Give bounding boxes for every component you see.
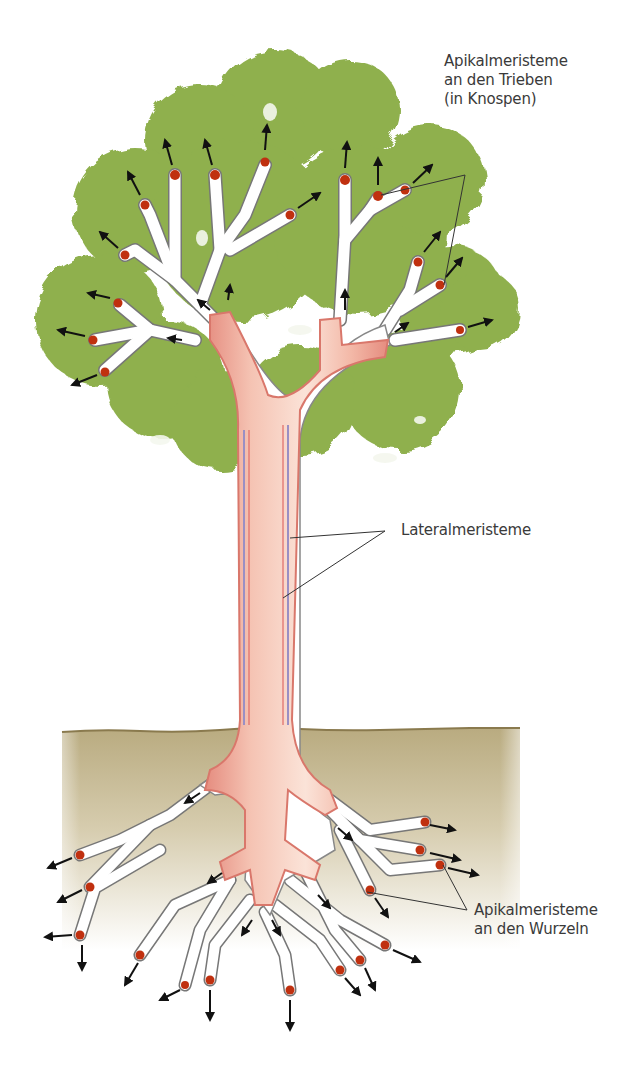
label-root-apical-line1: Apikalmeristeme — [474, 901, 598, 920]
label-root-apical-meristems: Apikalmeristeme an den Wurzeln — [474, 901, 598, 939]
tree-meristem-diagram: Apikalmeristeme an den Trieben (in Knosp… — [0, 0, 629, 1084]
label-shoot-apical-line3: (in Knospen) — [444, 90, 568, 109]
label-lateral-line1: Lateralmeristeme — [401, 521, 531, 540]
label-shoot-apical-meristems: Apikalmeristeme an den Trieben (in Knosp… — [444, 52, 568, 109]
label-lateral-meristems: Lateralmeristeme — [401, 521, 531, 540]
label-shoot-apical-line2: an den Trieben — [444, 71, 568, 90]
label-shoot-apical-line1: Apikalmeristeme — [444, 52, 568, 71]
label-root-apical-line2: an den Wurzeln — [474, 920, 598, 939]
